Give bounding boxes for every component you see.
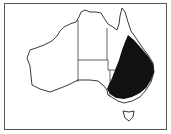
- tasmania: [123, 111, 134, 121]
- australia-map: [0, 0, 171, 134]
